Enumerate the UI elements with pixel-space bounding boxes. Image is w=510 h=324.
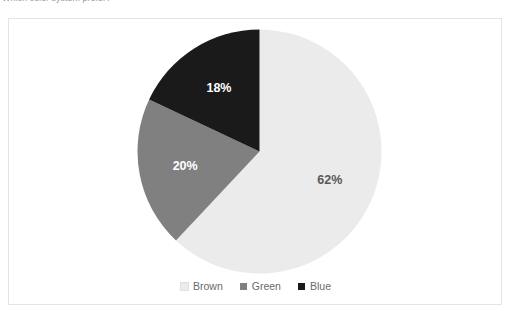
chart-frame: 62%20%18% BrownGreenBlue — [8, 18, 502, 305]
pie-graphic: 62%20%18% — [137, 29, 382, 274]
clipped-caption-text: Which color system prefer? — [2, 0, 202, 5]
legend-swatch-icon-blue — [298, 283, 305, 290]
legend-item-green[interactable]: Green — [240, 281, 281, 292]
legend-label: Green — [252, 281, 281, 292]
legend-label: Blue — [310, 281, 331, 292]
pie-data-label-green: 20% — [173, 159, 198, 173]
legend-item-brown[interactable]: Brown — [181, 281, 223, 292]
chart-legend: BrownGreenBlue — [9, 281, 503, 292]
legend-swatch-icon-brown — [181, 283, 188, 290]
pie-data-label-brown: 62% — [317, 173, 342, 187]
pie-svg: 62%20%18% — [137, 29, 382, 274]
legend-swatch-icon-green — [240, 283, 247, 290]
pie-chart-plot-area: 62%20%18% BrownGreenBlue — [9, 19, 503, 306]
pie-slice-group — [138, 30, 382, 274]
legend-label: Brown — [193, 281, 223, 292]
pie-data-label-blue: 18% — [206, 81, 231, 95]
legend-item-blue[interactable]: Blue — [298, 281, 331, 292]
